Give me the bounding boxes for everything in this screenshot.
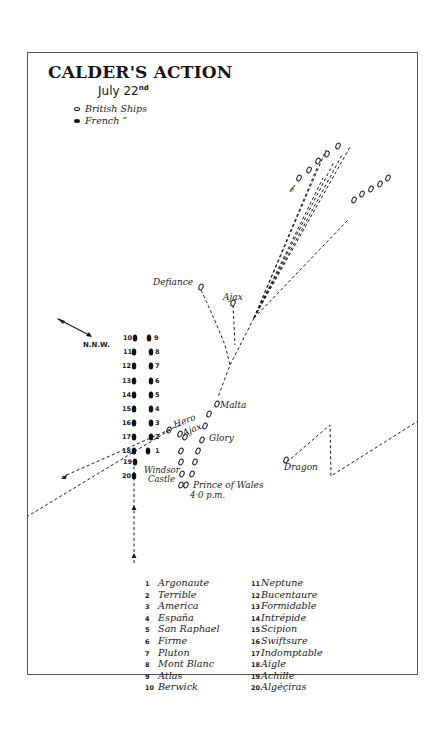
french-column-right: 9 8 7 6 5 4 3 2 1 [146,334,160,455]
legend-entry: 20Algéçiras [251,682,361,694]
label-malta: Malta [219,400,246,410]
svg-text:8: 8 [155,348,160,356]
svg-text:4: 4 [155,405,160,413]
svg-text:19: 19 [123,458,133,466]
label-glory: Glory [209,433,235,443]
svg-text:3: 3 [155,419,160,427]
svg-text:20: 20 [122,472,132,480]
svg-text:11: 11 [123,348,133,356]
svg-text:7: 7 [155,362,160,370]
svg-text:15: 15 [122,405,132,413]
svg-text:9: 9 [154,334,159,342]
legend-entry: 10 Berwick [145,682,251,694]
svg-text:2: 2 [155,433,160,441]
british-ships-upper: 𝒷 [166,142,391,488]
svg-text:6: 6 [155,377,160,385]
track-arrowheads [61,474,137,558]
svg-text:𝒷: 𝒷 [289,183,296,194]
svg-text:17: 17 [122,433,131,441]
svg-text:12: 12 [122,362,131,370]
svg-text:5: 5 [155,391,160,399]
wind-label: N.N.W. [83,341,110,349]
label-ajax-upper: Ajax [222,292,243,302]
label-defiance: Defiance [152,277,193,287]
svg-text:18: 18 [122,447,132,455]
label-prince-of-wales: Prince of Wales [192,480,264,490]
ship-legend: 1 Argonaute 11Neptune 2 Terrible 12Bucen… [145,578,361,694]
svg-text:1: 1 [155,447,160,455]
label-dragon: Dragon [283,462,318,472]
svg-text:10: 10 [123,334,133,342]
track-lines [28,147,418,565]
label-time: 4·0 p.m. [189,490,225,500]
svg-text:16: 16 [122,419,132,427]
svg-text:13: 13 [122,377,131,385]
french-column-left: 10 11 12 13 14 15 16 17 18 19 20 [122,334,137,480]
label-castle: Castle [148,474,175,484]
wind-arrow-icon [57,318,92,337]
svg-text:14: 14 [122,391,132,399]
